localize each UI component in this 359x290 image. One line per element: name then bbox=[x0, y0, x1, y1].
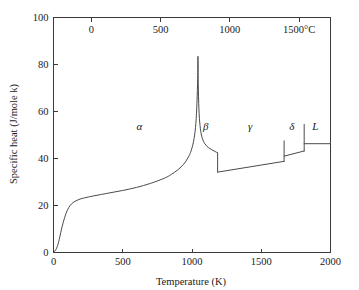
phase-label-beta: β bbox=[202, 120, 209, 132]
x-axis-tick-labels: 0500100015002000 bbox=[51, 256, 341, 267]
phase-label-gamma: γ bbox=[248, 120, 253, 132]
curve-alpha-phase-debye-rise bbox=[54, 57, 198, 252]
secondary-x-axis-tick-marks bbox=[91, 18, 299, 22]
chart-figure: 0500100015002000 020406080100 0500100015… bbox=[0, 0, 359, 290]
x-tick-label: 1500 bbox=[251, 256, 272, 267]
curve-curie-peak-descent bbox=[198, 57, 218, 153]
secondary-x-tick-label: 0 bbox=[89, 24, 94, 35]
x-tick-label: 500 bbox=[115, 256, 131, 267]
x-tick-label: 1000 bbox=[182, 256, 203, 267]
curve-gamma-phase bbox=[218, 161, 284, 172]
x-axis-title: Temperature (K) bbox=[156, 276, 227, 288]
data-curves bbox=[54, 57, 330, 252]
phase-label-alpha: α bbox=[136, 120, 142, 132]
x-axis-tick-marks bbox=[54, 249, 331, 253]
secondary-x-tick-label: 1000 bbox=[219, 24, 240, 35]
secondary-x-axis-tick-labels: 050010001500°C bbox=[89, 24, 315, 35]
secondary-x-tick-label: 1500°C bbox=[283, 24, 315, 35]
curve-delta-phase bbox=[284, 151, 304, 156]
y-tick-label: 60 bbox=[38, 106, 49, 117]
y-axis-title: Specific heat (J/mole k) bbox=[8, 83, 20, 184]
x-tick-label: 0 bbox=[51, 256, 56, 267]
y-tick-label: 100 bbox=[33, 12, 49, 23]
y-tick-label: 20 bbox=[38, 200, 49, 211]
phase-label-delta: δ bbox=[289, 120, 295, 132]
specific-heat-vs-temperature-chart: 0500100015002000 020406080100 0500100015… bbox=[0, 0, 359, 290]
y-axis-tick-labels: 020406080100 bbox=[33, 12, 49, 258]
axis-frame bbox=[54, 18, 331, 253]
phase-label-liquid: L bbox=[311, 120, 318, 132]
x-tick-label: 2000 bbox=[320, 256, 341, 267]
y-tick-label: 40 bbox=[38, 153, 49, 164]
y-tick-label: 80 bbox=[38, 59, 49, 70]
y-axis-tick-marks bbox=[54, 18, 58, 253]
secondary-x-tick-label: 500 bbox=[153, 24, 169, 35]
phase-annotations: αβγδL bbox=[136, 120, 318, 132]
y-tick-label: 0 bbox=[43, 247, 48, 258]
plot-frame bbox=[54, 18, 331, 253]
